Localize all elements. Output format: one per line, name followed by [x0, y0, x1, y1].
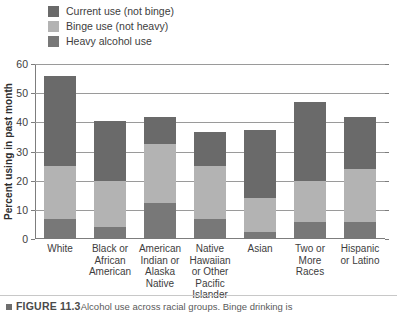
x-axis-label-line: Black or: [85, 243, 135, 255]
bar-segment[interactable]: [344, 169, 376, 222]
bar-series-container: [35, 64, 385, 239]
bar-group: [35, 64, 85, 239]
y-axis-tick-label: 60: [16, 58, 28, 70]
x-axis-label: Black orAfricanAmerican: [85, 243, 135, 278]
bar-segment[interactable]: [144, 117, 176, 145]
bar-group: [135, 64, 185, 239]
stacked-bar[interactable]: [294, 102, 326, 239]
y-axis-tick-right: [385, 152, 389, 153]
y-axis-tick-label: 0: [22, 233, 28, 245]
bar-segment[interactable]: [294, 222, 326, 240]
caption-text: Alcohol use across racial groups. Binge …: [81, 301, 293, 312]
x-axis-label-line: Pacific: [185, 278, 235, 290]
caption-divider: [0, 295, 397, 296]
bar-segment[interactable]: [294, 102, 326, 181]
figure-container: Current use (not binge) Binge use (not h…: [0, 0, 397, 313]
y-axis-tick-right: [385, 181, 389, 182]
x-axis-label-line: American: [135, 243, 185, 255]
stacked-bar[interactable]: [244, 130, 276, 239]
y-axis-tick-right: [385, 64, 389, 65]
y-axis-tick-label: 40: [16, 116, 28, 128]
caption-bullet-icon: [6, 304, 12, 310]
y-axis-title-text: Percent using in past month: [4, 83, 15, 220]
plot-area: 6050403020100: [35, 64, 385, 239]
y-axis-tick-label: 30: [16, 146, 28, 158]
y-axis-tick-right: [385, 239, 389, 240]
x-axis-label-line: Asian: [235, 243, 285, 255]
y-axis-tick-label: 50: [16, 87, 28, 99]
x-axis-label-line: Two or: [285, 243, 335, 255]
bar-segment[interactable]: [344, 222, 376, 240]
stacked-bar[interactable]: [144, 117, 176, 239]
bar-segment[interactable]: [94, 181, 126, 228]
x-axis-label: AmericanIndian orAlaskaNative: [135, 243, 185, 289]
x-axis-label: Asian: [235, 243, 285, 255]
legend-swatch-current-use: [48, 6, 59, 17]
x-axis-label-line: or Latino: [335, 255, 385, 267]
bar-segment[interactable]: [244, 130, 276, 199]
bar-segment[interactable]: [44, 76, 76, 166]
stacked-bar[interactable]: [194, 132, 226, 239]
y-axis-tick-label: 10: [16, 204, 28, 216]
bar-segment[interactable]: [94, 227, 126, 239]
stacked-bar[interactable]: [344, 117, 376, 240]
chart-legend: Current use (not binge) Binge use (not h…: [48, 4, 298, 49]
y-axis-tick: [31, 239, 35, 240]
bar-segment[interactable]: [94, 121, 126, 181]
legend-swatch-heavy-use: [48, 36, 59, 47]
y-axis-tick-right: [385, 210, 389, 211]
legend-item: Current use (not binge): [48, 4, 298, 18]
x-axis-label: Hispanicor Latino: [335, 243, 385, 266]
legend-label-heavy-use: Heavy alcohol use: [66, 36, 152, 47]
bar-segment[interactable]: [294, 181, 326, 222]
bar-group: [85, 64, 135, 239]
x-axis-label-line: Alaska: [135, 266, 185, 278]
y-axis-tick-right: [385, 93, 389, 94]
stacked-bar[interactable]: [94, 121, 126, 239]
x-axis-label-line: Hawaiian: [185, 255, 235, 267]
caption-figure-number: FIGURE 11.3: [16, 300, 81, 312]
x-axis-label-line: Native: [135, 278, 185, 290]
bar-segment[interactable]: [194, 166, 226, 219]
bar-segment[interactable]: [144, 203, 176, 239]
stacked-bar[interactable]: [44, 76, 76, 239]
bar-group: [335, 64, 385, 239]
legend-swatch-binge-use: [48, 21, 59, 32]
x-axis-label-line: Races: [285, 266, 335, 278]
bar-segment[interactable]: [44, 219, 76, 239]
bar-segment[interactable]: [194, 132, 226, 166]
x-axis-label: Two orMoreRaces: [285, 243, 335, 278]
legend-item: Heavy alcohol use: [48, 34, 298, 48]
y-axis-tick-right: [385, 122, 389, 123]
y-axis-title: Percent using in past month: [2, 64, 16, 239]
y-axis-tick-label: 20: [16, 175, 28, 187]
legend-label-current-use: Current use (not binge): [66, 6, 174, 17]
bar-segment[interactable]: [44, 166, 76, 219]
bar-segment[interactable]: [194, 219, 226, 239]
bar-group: [285, 64, 335, 239]
x-axis-label-line: White: [35, 243, 85, 255]
legend-label-binge-use: Binge use (not heavy): [66, 21, 168, 32]
bar-segment[interactable]: [344, 117, 376, 170]
x-axis-label-line: Hispanic: [335, 243, 385, 255]
bar-group: [235, 64, 285, 239]
x-axis-label: White: [35, 243, 85, 255]
legend-item: Binge use (not heavy): [48, 19, 298, 33]
x-axis-label: NativeHawaiianor OtherPacificIslander: [185, 243, 235, 301]
bar-segment[interactable]: [244, 198, 276, 232]
x-axis-label-line: More: [285, 255, 335, 267]
x-axis-label-line: African: [85, 255, 135, 267]
x-axis-label-line: American: [85, 266, 135, 278]
bar-segment[interactable]: [144, 144, 176, 202]
bar-group: [185, 64, 235, 239]
bar-segment[interactable]: [244, 232, 276, 239]
x-axis-label-line: or Other: [185, 266, 235, 278]
figure-caption: FIGURE 11.3Alcohol use across racial gro…: [6, 300, 397, 313]
x-axis-label-line: Indian or: [135, 255, 185, 267]
x-axis-label-line: Native: [185, 243, 235, 255]
